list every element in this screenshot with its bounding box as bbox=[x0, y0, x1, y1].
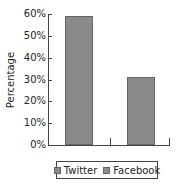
legend-swatch-icon bbox=[103, 167, 110, 174]
legend: Twitter Facebook bbox=[56, 161, 158, 179]
y-tick-label: 0% bbox=[16, 139, 46, 150]
y-axis bbox=[48, 14, 49, 146]
y-tick-label: 20% bbox=[16, 95, 46, 106]
legend-swatch-icon bbox=[54, 167, 61, 174]
x-tick-mark bbox=[169, 138, 170, 145]
bar-twitter bbox=[65, 16, 93, 145]
y-tick-label: 40% bbox=[16, 52, 46, 63]
legend-item-facebook: Facebook bbox=[103, 165, 160, 176]
y-tick-label: 10% bbox=[16, 117, 46, 128]
y-tick-label: 30% bbox=[16, 74, 46, 85]
y-tick-label: 50% bbox=[16, 30, 46, 41]
bar-facebook bbox=[127, 77, 155, 145]
x-axis bbox=[48, 145, 170, 146]
legend-item-twitter: Twitter bbox=[54, 165, 98, 176]
bar-chart: Percentage 0%10%20%30%40%50%60% Twitter … bbox=[0, 0, 182, 191]
y-tick-label: 60% bbox=[16, 8, 46, 19]
x-tick-mark bbox=[110, 138, 111, 145]
